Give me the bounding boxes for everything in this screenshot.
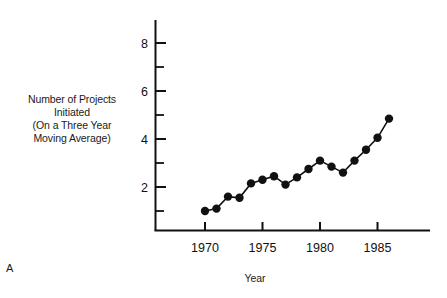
figure-panel-a: Number of Projects Initiated (On a Three… (0, 0, 447, 298)
line-chart: 2468 1970197519801985 (0, 0, 447, 298)
y-tick-label: 6 (141, 85, 148, 99)
x-tick-group: 1970197519801985 (191, 222, 391, 255)
x-tick-label: 1980 (306, 241, 334, 255)
data-point (247, 179, 255, 187)
data-point (327, 162, 335, 170)
y-tick-label: 2 (141, 181, 148, 195)
data-series-group (201, 114, 393, 215)
data-point (362, 146, 370, 154)
data-point (201, 207, 209, 215)
x-tick-label: 1985 (364, 241, 392, 255)
data-point (385, 114, 393, 122)
data-point (316, 156, 324, 164)
data-point (350, 156, 358, 164)
y-tick-group: 2468 (141, 37, 166, 212)
data-point (281, 180, 289, 188)
x-tick-label: 1970 (191, 241, 219, 255)
data-line (205, 119, 389, 211)
data-point (224, 192, 232, 200)
data-point (293, 173, 301, 181)
data-point (304, 165, 312, 173)
y-tick-label: 4 (141, 133, 148, 147)
data-point (270, 172, 278, 180)
axes-group (155, 20, 431, 231)
x-tick-label: 1975 (249, 241, 277, 255)
data-point (339, 168, 347, 176)
data-point (212, 204, 220, 212)
data-markers (201, 114, 393, 215)
y-tick-label: 8 (141, 37, 148, 51)
data-point (258, 176, 266, 184)
data-point (235, 194, 243, 202)
data-point (373, 134, 381, 142)
